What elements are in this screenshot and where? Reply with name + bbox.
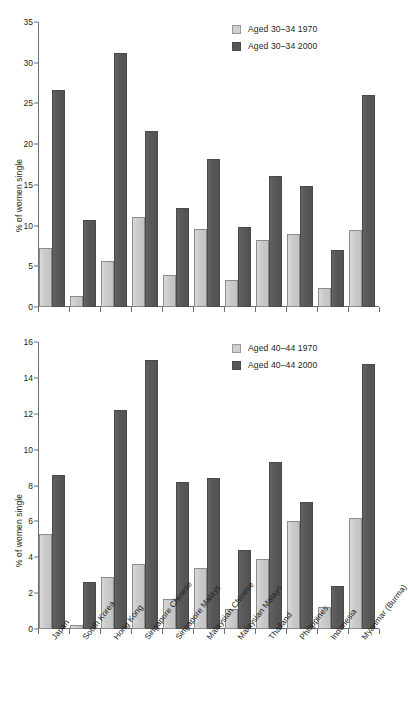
x-axis-tick-mark (379, 307, 380, 312)
y-axis-tick-label: 35 (11, 18, 33, 27)
bar (225, 280, 237, 307)
y-axis-ticks-bottom: 0246810121416 (0, 320, 33, 640)
legend-label: Aged 40–44 2000 (248, 360, 317, 370)
chart-panel-aged-30-34: % of women single 05101520253035 Aged 30… (0, 0, 387, 320)
legend-item: Aged 30–34 1970 (232, 24, 317, 34)
y-axis-tick-label: 6 (11, 517, 33, 526)
x-axis-tick-mark (286, 307, 287, 312)
legend-label: Aged 30–34 1970 (248, 24, 317, 34)
bar (163, 275, 175, 307)
y-axis-tick-label: 10 (11, 221, 33, 230)
bar (145, 131, 157, 307)
bar (70, 296, 82, 307)
x-axis-tick-mark (38, 307, 39, 312)
bar (362, 364, 374, 629)
legend-swatch-icon (232, 344, 241, 353)
y-axis-tick-label: 4 (11, 553, 33, 562)
bar (101, 261, 113, 307)
legend-item: Aged 30–34 2000 (232, 41, 317, 51)
bar (39, 534, 51, 629)
bar (238, 227, 250, 307)
x-axis-tick-mark (162, 307, 163, 312)
bar (176, 208, 188, 307)
chart-panel-aged-40-44: % of women single 0246810121416 Aged 40–… (0, 320, 387, 640)
bar (207, 159, 219, 307)
y-axis-tick-label: 15 (11, 181, 33, 190)
bar (194, 229, 206, 307)
bar (52, 475, 64, 629)
legend-label: Aged 40–44 1970 (248, 343, 317, 353)
bar (331, 250, 343, 307)
x-axis-tick-mark (348, 307, 349, 312)
legend-item: Aged 40–44 1970 (232, 343, 317, 353)
legend-swatch-icon (232, 42, 241, 51)
bar (132, 217, 144, 307)
x-axis-tick-mark (255, 307, 256, 312)
bar (207, 478, 219, 629)
bar (52, 90, 64, 307)
y-axis-tick-label: 20 (11, 140, 33, 149)
y-axis-tick-label: 2 (11, 589, 33, 598)
bar (70, 625, 82, 629)
y-axis-tick-label: 14 (11, 374, 33, 383)
bar (300, 186, 312, 307)
legend-swatch-icon (232, 25, 241, 34)
x-axis-tick-mark (100, 307, 101, 312)
y-axis-tick-label: 30 (11, 58, 33, 67)
legend-swatch-icon (232, 361, 241, 370)
bar (287, 234, 299, 307)
y-axis-tick-label: 10 (11, 445, 33, 454)
bar (145, 360, 157, 629)
bar (318, 288, 330, 307)
bar (114, 410, 126, 629)
x-axis-tick-mark (193, 307, 194, 312)
y-axis-tick-label: 5 (11, 262, 33, 271)
legend-bottom: Aged 40–44 1970Aged 40–44 2000 (232, 343, 317, 370)
y-axis-tick-label: 12 (11, 410, 33, 419)
legend-item: Aged 40–44 2000 (232, 360, 317, 370)
plot-area-top (38, 22, 379, 307)
bar (39, 248, 51, 307)
x-axis-tick-mark (131, 307, 132, 312)
x-axis-category-labels: JapanSouth KoreaHong KongSingapore Chine… (0, 632, 387, 712)
y-axis-tick-label: 8 (11, 481, 33, 490)
bar (300, 502, 312, 629)
bar (176, 482, 188, 629)
x-axis-tick-mark (69, 307, 70, 312)
y-axis-ticks-top: 05101520253035 (0, 0, 33, 320)
bar (256, 240, 268, 307)
x-axis-tick-mark (224, 307, 225, 312)
bar (83, 220, 95, 307)
y-axis-tick-label: 0 (11, 303, 33, 312)
bar (349, 230, 361, 307)
y-axis-tick-label: 16 (11, 338, 33, 347)
legend-label: Aged 30–34 2000 (248, 41, 317, 51)
plot-area-bottom (38, 342, 379, 629)
bar (362, 95, 374, 307)
legend-top: Aged 30–34 1970Aged 30–34 2000 (232, 24, 317, 51)
bar (269, 176, 281, 307)
y-axis-tick-label: 25 (11, 99, 33, 108)
x-axis-tick-mark (317, 307, 318, 312)
bar (114, 53, 126, 307)
